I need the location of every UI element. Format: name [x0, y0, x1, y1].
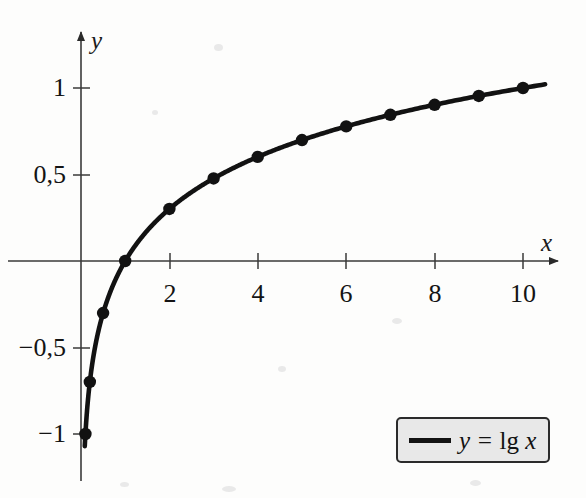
data-point-marker — [296, 134, 308, 146]
x-axis-label: x — [541, 230, 552, 255]
x-tick-label-8: 8 — [411, 281, 459, 307]
y-tick-label-neg-1: −1 — [0, 421, 66, 447]
data-point-marker — [340, 120, 352, 132]
legend-entry-label: y = lg x — [459, 428, 536, 453]
legend-equation-lhs: y = — [459, 427, 499, 454]
series-curve-lg-x — [85, 84, 545, 446]
logarithm-graph-figure: y x 1 0,5 −0,5 −1 2 4 6 8 10 y = lg x — [0, 0, 586, 498]
legend-line-swatch — [409, 438, 451, 443]
data-point-marker — [428, 99, 440, 111]
data-point-marker — [97, 307, 109, 319]
chart-legend: y = lg x — [396, 417, 550, 463]
data-point-marker — [84, 376, 96, 388]
y-axis-label: y — [91, 28, 102, 53]
legend-function-name: lg — [499, 427, 518, 454]
data-point-marker — [517, 82, 529, 94]
data-point-marker — [207, 172, 219, 184]
data-point-marker — [384, 109, 396, 121]
x-tick-label-2: 2 — [146, 281, 194, 307]
legend-argument-variable: x — [525, 427, 536, 454]
x-tick-label-10: 10 — [495, 281, 551, 307]
data-point-marker — [252, 151, 264, 163]
y-tick-label-1: 1 — [8, 75, 66, 101]
y-tick-label-neg-0-5: −0,5 — [0, 335, 66, 361]
data-point-marker — [79, 428, 91, 440]
x-tick-label-4: 4 — [234, 281, 282, 307]
data-point-marker — [119, 255, 131, 267]
y-tick-label-0-5: 0,5 — [8, 162, 66, 188]
x-tick-label-6: 6 — [322, 281, 370, 307]
data-point-marker — [473, 90, 485, 102]
data-point-marker — [163, 203, 175, 215]
